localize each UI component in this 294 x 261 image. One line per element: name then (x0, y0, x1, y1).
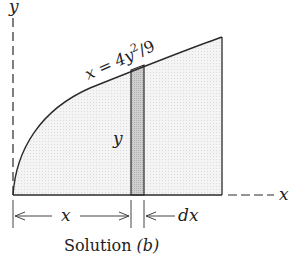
caption: Solution (b) (64, 236, 159, 255)
diagram: y x x = 4y2/9 y x dx Solution (b) (0, 0, 294, 261)
strip-height-label: y (112, 128, 123, 148)
strip-dx (131, 65, 144, 195)
dim-dx-label: dx (178, 205, 199, 225)
x-axis-label: x (279, 184, 289, 204)
area-diagram-svg: y x x = 4y2/9 y x dx Solution (b) (0, 0, 294, 261)
dim-x-label: x (61, 205, 71, 225)
y-axis-label: y (8, 0, 19, 16)
